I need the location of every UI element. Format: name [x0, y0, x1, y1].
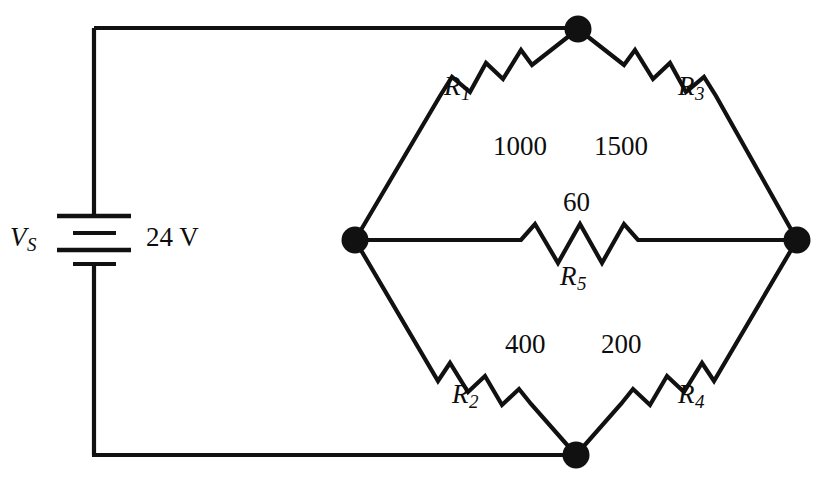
r4-subscript: 4 [695, 391, 705, 412]
r5-symbol-label: R5 [560, 263, 587, 293]
r5-symbol: R [560, 261, 577, 291]
r1-value-label: 1000 [493, 133, 547, 160]
node-top-dot [565, 16, 592, 43]
node-bottom-dot [563, 442, 590, 469]
source-symbol: V [10, 222, 27, 252]
source-symbol-label: VS [10, 224, 37, 254]
node-left-dot [342, 227, 369, 254]
r5-value-label: 60 [563, 189, 590, 216]
r3-value-label: 1500 [594, 133, 648, 160]
r4-symbol-label: R4 [678, 381, 705, 411]
r3-subscript: 3 [695, 83, 705, 104]
r4-value-label: 200 [601, 331, 642, 358]
r4-symbol: R [678, 379, 695, 409]
r2-subscript: 2 [469, 391, 479, 412]
r3-symbol: R [678, 71, 695, 101]
r5-subscript: 5 [577, 273, 587, 294]
node-right-dot [784, 227, 811, 254]
source-value-label: 24 V [146, 224, 199, 251]
r2-symbol-label: R2 [452, 381, 479, 411]
source-symbol-subscript: S [27, 234, 37, 255]
branch-r5 [355, 224, 797, 263]
r3-symbol-label: R3 [678, 73, 705, 103]
r2-symbol: R [452, 379, 469, 409]
circuit-diagram: VS 24 V R1 1000 R3 1500 60 R5 400 R2 200… [0, 0, 822, 482]
r1-subscript: 1 [461, 83, 471, 104]
r1-symbol: R [444, 71, 461, 101]
r1-symbol-label: R1 [444, 73, 471, 103]
r2-value-label: 400 [505, 331, 546, 358]
